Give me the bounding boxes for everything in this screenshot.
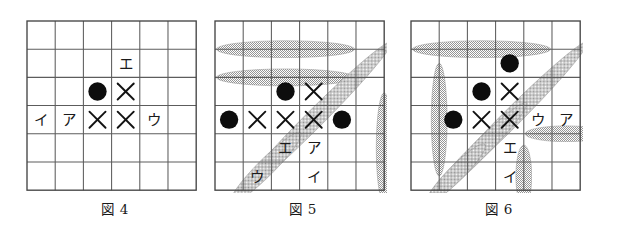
figure-4-label-エ: エ [119, 56, 133, 72]
figure-6-black-stone-1[interactable] [472, 82, 490, 100]
figure-6-label-ウ: ウ [531, 112, 545, 128]
figure-5-caption: 図 5 [212, 198, 394, 218]
figure-row: エイアウ図 4エアウイ図 5ウアエイ図 6 [0, 0, 620, 244]
figure-6-caption: 図 6 [408, 198, 590, 218]
figure-5: エアウイ図 5 [212, 0, 398, 244]
figure-5-label-イ: イ [307, 169, 321, 185]
figure-5-board[interactable]: エアウイ [212, 18, 394, 190]
figure-4-caption: 図 4 [24, 198, 206, 218]
figure-6-label-ア: ア [559, 112, 573, 128]
figure-5-black-stone-0[interactable] [276, 82, 294, 100]
figure-4-black-stone-0[interactable] [88, 82, 106, 100]
figure-4-board[interactable]: エイアウ [24, 18, 206, 190]
figure-5-label-ア: ア [307, 140, 321, 156]
figure-6-black-stone-2[interactable] [444, 111, 462, 129]
figure-5-label-エ: エ [278, 140, 292, 156]
figure-6-black-stone-0[interactable] [501, 54, 519, 72]
figure-6-label-エ: エ [503, 140, 517, 156]
figure-6-label-イ: イ [503, 169, 517, 185]
figure-5-black-stone-2[interactable] [333, 111, 351, 129]
figure-5-label-ウ: ウ [250, 169, 264, 185]
figure-4: エイアウ図 4 [24, 0, 210, 244]
figure-6-board[interactable]: ウアエイ [408, 18, 590, 190]
figure-4-label-ア: ア [62, 112, 76, 128]
figure-4-stones [88, 82, 106, 100]
figure-4-label-イ: イ [34, 112, 48, 128]
figure-4-label-ウ: ウ [147, 112, 161, 128]
figure-5-black-stone-1[interactable] [220, 111, 238, 129]
figure-6: ウアエイ図 6 [408, 0, 594, 244]
